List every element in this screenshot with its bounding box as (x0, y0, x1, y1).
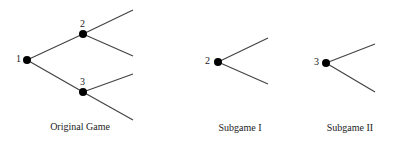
subgame2-node-label: 3 (314, 56, 319, 67)
node-label-2: 2 (80, 18, 85, 29)
node-label-1: 1 (16, 53, 21, 64)
node-2 (79, 30, 87, 38)
caption-original-game: Original Game (50, 121, 110, 132)
caption-subgame-2: Subgame II (327, 122, 373, 133)
node-3 (79, 88, 87, 96)
subgame1-node-2 (214, 58, 222, 66)
subgame2-node-3 (322, 59, 330, 67)
game-tree-diagram (0, 0, 395, 141)
subgame1-node-label: 2 (205, 55, 210, 66)
node-label-3: 3 (80, 76, 85, 87)
node-1 (23, 56, 31, 64)
caption-subgame-1: Subgame I (218, 122, 261, 133)
